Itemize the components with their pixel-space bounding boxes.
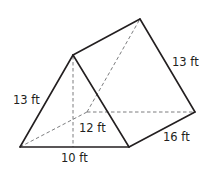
label-base: 10 ft — [61, 151, 88, 165]
label-height: 12 ft — [79, 121, 106, 135]
label-length: 16 ft — [163, 130, 190, 144]
triangular-prism-diagram: 13 ft 13 ft 12 ft 10 ft 16 ft — [0, 0, 207, 173]
label-front-slant: 13 ft — [13, 93, 40, 107]
label-back-slant: 13 ft — [172, 55, 199, 69]
